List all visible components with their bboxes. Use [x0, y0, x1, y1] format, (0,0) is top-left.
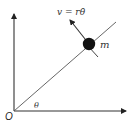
velocity-label: v = rθ̇	[57, 7, 86, 17]
radial-line	[14, 22, 116, 111]
mass-label: m	[100, 39, 109, 50]
polar-motion-diagram: v = rθ̇ m θ O	[0, 0, 131, 126]
mass-dot	[83, 38, 95, 50]
origin-label: O	[5, 111, 13, 122]
angle-label: θ	[34, 101, 39, 110]
